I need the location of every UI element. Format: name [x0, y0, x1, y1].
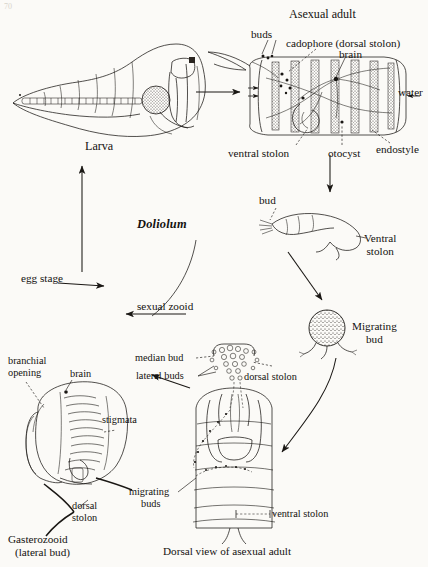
label-ventral-stolon-dorsal-view: ventral stolon — [272, 508, 328, 520]
label-asexual-adult-title: Asexual adult — [289, 8, 356, 22]
label-brain-gasterozooid: brain — [70, 368, 91, 380]
label-migrating-buds: migrating buds — [129, 486, 169, 509]
label-migrating-bud: Migrating bud — [352, 320, 397, 345]
label-egg-stage: egg stage — [21, 272, 63, 285]
label-lateral-buds: lateral buds — [136, 370, 184, 382]
label-brain-adult: brain — [339, 48, 362, 61]
figure-caption: Dorsal view of asexual adult — [163, 545, 291, 558]
label-median-bud: median bud — [135, 352, 183, 364]
label-larva: Larva — [85, 140, 113, 154]
label-bud: bud — [259, 194, 276, 207]
label-water: water — [398, 86, 423, 99]
label-ventral-stolon-stage: Ventral stolon — [364, 232, 396, 257]
label-ventral-stolon-adult: ventral stolon — [228, 147, 289, 160]
label-endostyle: endostyle — [376, 143, 419, 156]
arrow-stolon-to-migrating-bud — [288, 252, 322, 300]
label-sexual-zooid: sexual zooid — [137, 300, 193, 313]
arrow-egg-stage — [58, 283, 104, 286]
ventral-stolon-illustration — [259, 208, 366, 260]
label-dorsal-stolon-gasterozooid: dorsal stolon — [72, 500, 97, 523]
diagram-artwork — [0, 0, 428, 567]
label-genus: Doliolum — [137, 218, 187, 232]
label-branchial-opening: branchial opening — [8, 355, 46, 378]
label-gasterozooid-caption: Gasterozooid (lateral bud) — [8, 533, 70, 558]
label-buds: buds — [251, 28, 272, 41]
label-dorsal-stolon-dorsal-view: dorsal stolon — [244, 371, 297, 383]
label-otocyst: otocyst — [328, 147, 360, 160]
larva-illustration — [13, 44, 205, 137]
figure-canvas: 70 — [0, 0, 428, 567]
asexual-adult-illustration — [208, 52, 420, 135]
migrating-bud-illustration — [299, 310, 357, 359]
label-stigmata: stigmata — [102, 414, 137, 426]
